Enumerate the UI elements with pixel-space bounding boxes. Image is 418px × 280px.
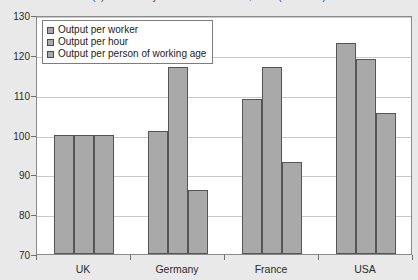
x-tick-mark <box>36 255 37 260</box>
y-tick-label: 100 <box>13 130 30 141</box>
bar <box>242 99 262 254</box>
legend-swatch-icon <box>47 39 54 46</box>
y-axis: 708090100110120130 <box>0 0 36 280</box>
y-tick-label: 130 <box>13 11 30 22</box>
x-tick-mark <box>224 255 225 260</box>
chart-title: (a) Productivity in selected countries, … <box>0 0 418 2</box>
y-tick-label: 110 <box>14 90 30 101</box>
legend-label: Output per hour <box>58 36 128 48</box>
x-axis: UKGermanyFranceUSA <box>36 255 412 280</box>
legend-item: Output per person of working age <box>47 48 206 60</box>
bar <box>376 113 396 254</box>
legend-swatch-icon <box>47 27 54 34</box>
bar <box>54 135 74 255</box>
legend-label: Output per person of working age <box>58 48 206 60</box>
y-tick-label: 90 <box>19 170 30 181</box>
x-tick-mark <box>412 255 413 260</box>
legend-item: Output per worker <box>47 24 206 36</box>
bar <box>148 131 168 254</box>
x-tick-label: France <box>255 263 288 275</box>
y-tick-label: 70 <box>19 250 30 261</box>
bar <box>168 67 188 254</box>
x-tick-mark <box>318 255 319 260</box>
x-tick-label: Germany <box>155 263 198 275</box>
bar <box>74 135 94 255</box>
y-tick-label: 80 <box>19 210 30 221</box>
x-tick-mark <box>130 255 131 260</box>
legend-swatch-icon <box>47 51 54 58</box>
bar <box>188 190 208 254</box>
legend-label: Output per worker <box>58 24 138 36</box>
y-tick-label: 120 <box>13 50 30 61</box>
legend-item: Output per hour <box>47 36 206 48</box>
x-tick-label: USA <box>354 263 376 275</box>
bar <box>262 67 282 254</box>
bar <box>282 162 302 254</box>
bar <box>94 135 114 255</box>
x-tick-label: UK <box>76 263 91 275</box>
bar <box>336 43 356 254</box>
bar <box>356 59 376 254</box>
chart-legend: Output per workerOutput per hourOutput p… <box>42 20 213 64</box>
